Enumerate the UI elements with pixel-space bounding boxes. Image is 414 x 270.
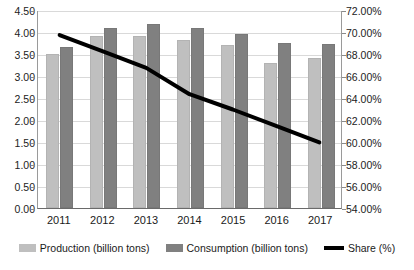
- right-axis-tick-label: 62.00%: [346, 116, 408, 127]
- left-axis-tick-mark: [31, 121, 35, 122]
- left-axis-tick-label: 1.50: [1, 138, 35, 149]
- left-axis-tick-label: 4.00: [1, 28, 35, 39]
- x-axis-tick-label: 2011: [37, 213, 81, 227]
- left-axis-tick-label: 0.00: [1, 204, 35, 215]
- right-axis-tick-mark: [342, 209, 346, 210]
- left-axis-tick-mark: [31, 187, 35, 188]
- legend-color-swatch-icon: [166, 244, 183, 252]
- legend-item: Production (billion tons): [19, 242, 150, 254]
- x-axis-tick-label: 2012: [81, 213, 125, 227]
- legend-line-swatch-icon: [324, 246, 344, 250]
- left-axis-tick-mark: [31, 33, 35, 34]
- legend-item: Consumption (billion tons): [166, 242, 308, 254]
- x-axis: 2011201220132014201520162017: [37, 213, 342, 231]
- left-axis: 0.000.501.001.502.002.503.003.504.004.50: [0, 0, 35, 270]
- right-axis-tick-label: 66.00%: [346, 72, 408, 83]
- legend-color-swatch-icon: [19, 244, 36, 252]
- legend-label: Share (%): [348, 242, 395, 254]
- left-axis-tick-label: 2.50: [1, 94, 35, 105]
- left-axis-tick-label: 2.00: [1, 116, 35, 127]
- left-axis-tick-mark: [31, 143, 35, 144]
- right-axis-tick-label: 58.00%: [346, 160, 408, 171]
- left-axis-tick-mark: [31, 77, 35, 78]
- legend-label: Production (billion tons): [40, 242, 150, 254]
- left-axis-tick-mark: [31, 165, 35, 166]
- left-axis-tick-label: 4.50: [1, 6, 35, 17]
- right-axis-tick-label: 56.00%: [346, 182, 408, 193]
- share-line-path: [60, 35, 320, 142]
- legend-item: Share (%): [324, 242, 395, 254]
- right-axis-tick-label: 70.00%: [346, 28, 408, 39]
- x-axis-tick-label: 2014: [168, 213, 212, 227]
- x-axis-tick-label: 2013: [124, 213, 168, 227]
- left-axis-tick-mark: [31, 11, 35, 12]
- left-axis-tick-label: 3.00: [1, 72, 35, 83]
- chart-legend: Production (billion tons)Consumption (bi…: [0, 240, 414, 256]
- left-axis-tick-label: 0.50: [1, 182, 35, 193]
- right-axis-tick-label: 54.00%: [346, 204, 408, 215]
- right-axis-tick-label: 60.00%: [346, 138, 408, 149]
- left-axis-tick-label: 1.00: [1, 160, 35, 171]
- legend-label: Consumption (billion tons): [187, 242, 308, 254]
- x-axis-tick-label: 2015: [211, 213, 255, 227]
- left-axis-tick-mark: [31, 209, 35, 210]
- right-axis-tick-label: 64.00%: [346, 94, 408, 105]
- right-axis-tick-label: 68.00%: [346, 50, 408, 61]
- figure-chart: 0.000.501.001.502.002.503.003.504.004.50…: [0, 0, 414, 270]
- x-axis-tick-label: 2016: [255, 213, 299, 227]
- left-axis-tick-mark: [31, 99, 35, 100]
- x-axis-tick-label: 2017: [298, 213, 342, 227]
- share-line-series: [38, 11, 341, 208]
- right-axis-tick-label: 72.00%: [346, 6, 408, 17]
- left-axis-tick-label: 3.50: [1, 50, 35, 61]
- plot-area: [37, 11, 342, 209]
- left-axis-tick-mark: [31, 55, 35, 56]
- right-axis: 54.00%56.00%58.00%60.00%62.00%64.00%66.0…: [346, 0, 412, 270]
